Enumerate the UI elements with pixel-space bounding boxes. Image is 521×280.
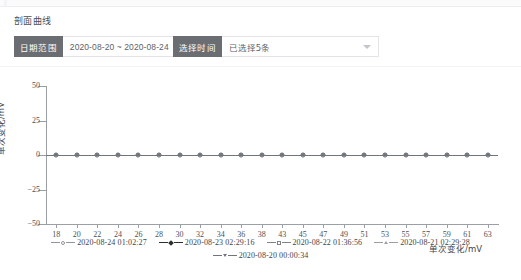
legend-row: 2020-08-24 01:02:272020-08-23 02:29:1620… [0, 236, 521, 249]
date-range-label: 日期范围 [14, 36, 63, 57]
x-axis-tick [364, 224, 365, 228]
triangle-down-marker-icon [223, 254, 227, 257]
triangle-down-marker-icon [260, 154, 264, 157]
plot-area [46, 86, 498, 224]
triangle-down-marker-icon [465, 154, 469, 157]
x-axis-tick [262, 224, 263, 228]
time-select-label: 选择时间 [173, 36, 222, 57]
legend-line-left [213, 255, 222, 256]
x-axis-tick [385, 224, 386, 228]
square-marker-icon [277, 241, 281, 245]
chart-legend: 2020-08-24 01:02:272020-08-23 02:29:1620… [0, 236, 521, 262]
legend-line-right [389, 242, 398, 243]
x-axis-tick [118, 224, 119, 228]
date-range-control[interactable]: 日期范围 2020-08-20 ~ 2020-08-24 [14, 36, 178, 57]
y-axis-tick-label: −25 [0, 185, 40, 194]
x-axis-tick [467, 224, 468, 228]
card-top-divider [0, 6, 521, 7]
triangle-down-marker-icon [157, 154, 161, 157]
x-axis-tick [77, 224, 78, 228]
legend-line-left [159, 242, 168, 243]
x-axis-tick [180, 224, 181, 228]
circle-marker-icon [61, 241, 65, 245]
triangle-down-marker-icon [362, 154, 366, 157]
legend-line-left [267, 242, 276, 243]
x-axis-tick [447, 224, 448, 228]
triangle-down-marker-icon [198, 154, 202, 157]
x-axis-tick [488, 224, 489, 228]
x-axis-tick [323, 224, 324, 228]
legend-line-right [174, 242, 183, 243]
chart-card: 剖面曲线 日期范围 2020-08-20 ~ 2020-08-24 选择时间 已… [0, 0, 521, 280]
x-axis-tick [159, 224, 160, 228]
y-axis-title: 单次变化/mV [0, 102, 6, 155]
legend-item[interactable]: 2020-08-23 02:29:16 [159, 238, 255, 247]
legend-item[interactable]: 2020-08-20 00:00:34 [213, 251, 309, 260]
x-axis-tick [406, 224, 407, 228]
legend-line-left [374, 242, 383, 243]
x-axis-tick [200, 224, 201, 228]
x-axis-tick [56, 224, 57, 228]
triangle-down-marker-icon [116, 154, 120, 157]
legend-line-right [66, 242, 75, 243]
legend-item[interactable]: 2020-08-22 01:36:56 [267, 238, 363, 247]
legend-line-left [51, 242, 60, 243]
triangle-down-marker-icon [321, 154, 325, 157]
triangle-down-marker-icon [404, 154, 408, 157]
triangle-down-marker-icon [342, 154, 346, 157]
y-axis-tick-label: 50 [0, 81, 40, 90]
diamond-filled-marker-icon [168, 240, 174, 246]
x-axis-tick [282, 224, 283, 228]
x-axis-tick [241, 224, 242, 228]
triangle-down-marker-icon [54, 154, 58, 157]
legend-item[interactable]: 2020-08-24 01:02:27 [51, 238, 147, 247]
legend-label: 2020-08-20 00:00:34 [239, 251, 309, 260]
x-axis-tick [303, 224, 304, 228]
legend-label: 2020-08-22 01:36:56 [293, 238, 363, 247]
legend-label: 2020-08-24 01:02:27 [77, 238, 147, 247]
x-axis-tick [221, 224, 222, 228]
x-axis-tick [344, 224, 345, 228]
y-axis-tick-label: 0 [0, 150, 40, 159]
triangle-down-marker-icon [280, 154, 284, 157]
triangle-down-marker-icon [424, 154, 428, 157]
time-select-value: 已选择5条 [229, 41, 270, 53]
legend-line-right [228, 255, 237, 256]
legend-label: 2020-08-21 02:29:28 [400, 238, 470, 247]
triangle-down-marker-icon [75, 154, 79, 157]
legend-line-right [282, 242, 291, 243]
triangle-down-marker-icon [301, 154, 305, 157]
x-axis-tick [138, 224, 139, 228]
time-select-control[interactable]: 选择时间 已选择5条 [173, 36, 379, 57]
series-line-path [46, 155, 498, 156]
chevron-down-icon [363, 45, 371, 49]
legend-label: 2020-08-23 02:29:16 [185, 238, 255, 247]
x-axis-tick [97, 224, 98, 228]
toolbar-divider [0, 66, 521, 67]
triangle-up-marker-icon [384, 241, 388, 244]
date-range-input[interactable]: 2020-08-20 ~ 2020-08-24 [63, 36, 178, 57]
y-axis-tick-label: 25 [0, 116, 40, 125]
legend-item[interactable]: 2020-08-21 02:29:28 [374, 238, 470, 247]
x-axis-spine [46, 224, 499, 225]
triangle-down-marker-icon [445, 154, 449, 157]
triangle-down-marker-icon [95, 154, 99, 157]
y-axis-tick-label: −50 [0, 219, 40, 228]
legend-row: 2020-08-20 00:00:34 [0, 249, 521, 262]
triangle-down-marker-icon [486, 154, 490, 157]
time-select-dropdown[interactable]: 已选择5条 [222, 36, 379, 57]
triangle-down-marker-icon [136, 154, 140, 157]
x-axis-tick [426, 224, 427, 228]
triangle-down-marker-icon [178, 154, 182, 157]
triangle-down-marker-icon [219, 154, 223, 157]
triangle-down-marker-icon [239, 154, 243, 157]
page-title: 剖面曲线 [14, 14, 51, 27]
triangle-down-marker-icon [383, 154, 387, 157]
